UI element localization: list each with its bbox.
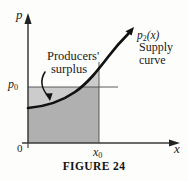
p0-tick-label: p0 (8, 78, 18, 92)
figure-container: p x 0 p0 x0 p2(x) Supply curve Producers… (0, 0, 188, 181)
x-axis-label: x (174, 142, 180, 156)
surplus-label-line2: surplus (47, 63, 99, 76)
supply-label-line1: Supply (139, 40, 173, 54)
origin-label: 0 (17, 143, 23, 155)
supply-label-line2: curve (139, 54, 173, 67)
surplus-label-line1: Producers' (47, 49, 99, 63)
figure-caption: FIGURE 24 (0, 160, 188, 172)
producers-surplus-label: Producers' surplus (47, 50, 99, 76)
y-axis-label: p (16, 8, 23, 22)
y-axis-arrowhead (24, 13, 31, 24)
x0-tick-label-subscript: 0 (98, 151, 102, 160)
supply-curve-text-label: Supply curve (139, 41, 173, 66)
p0-tick-label-subscript: 0 (14, 83, 18, 92)
x0-tick-label: x0 (93, 146, 102, 160)
